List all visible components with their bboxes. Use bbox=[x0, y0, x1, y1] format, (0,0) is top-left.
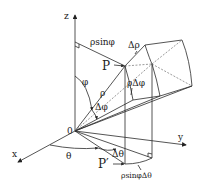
ray-3 bbox=[75, 96, 160, 131]
label-phi: φ bbox=[82, 77, 88, 87]
label-x: x bbox=[12, 149, 17, 159]
label-delta-phi: Δφ bbox=[95, 102, 108, 112]
ray-dashed bbox=[75, 64, 152, 131]
label-delta-theta: Δθ bbox=[112, 149, 124, 159]
label-P: P bbox=[102, 59, 110, 73]
rho-sin-phi-delta-theta-leader bbox=[138, 165, 141, 170]
arc-rho-sin-phi-delta-theta bbox=[125, 158, 152, 164]
label-rho: ρ bbox=[100, 88, 105, 98]
label-rho-delta-phi: ρΔφ bbox=[127, 78, 145, 88]
label-y: y bbox=[177, 132, 184, 142]
label-rho-sin-phi: ρsinφ bbox=[90, 37, 115, 47]
label-delta-rho: Δρ bbox=[128, 40, 140, 50]
label-theta: θ bbox=[66, 151, 71, 161]
label-P-prime: P′ bbox=[98, 157, 109, 171]
label-z: z bbox=[64, 11, 69, 21]
label-rho-sin-phi-delta-theta: ρsinφΔθ bbox=[121, 171, 152, 180]
right-angle-marker-top bbox=[75, 44, 79, 48]
theta-arc bbox=[50, 145, 98, 149]
label-origin: 0 bbox=[67, 126, 73, 136]
spherical-coordinates-diagram: z x y 0 P P′ ρ φ θ Δφ Δθ Δρ ρsinφ ρΔφ ρs… bbox=[0, 0, 205, 195]
y-axis bbox=[75, 131, 186, 145]
